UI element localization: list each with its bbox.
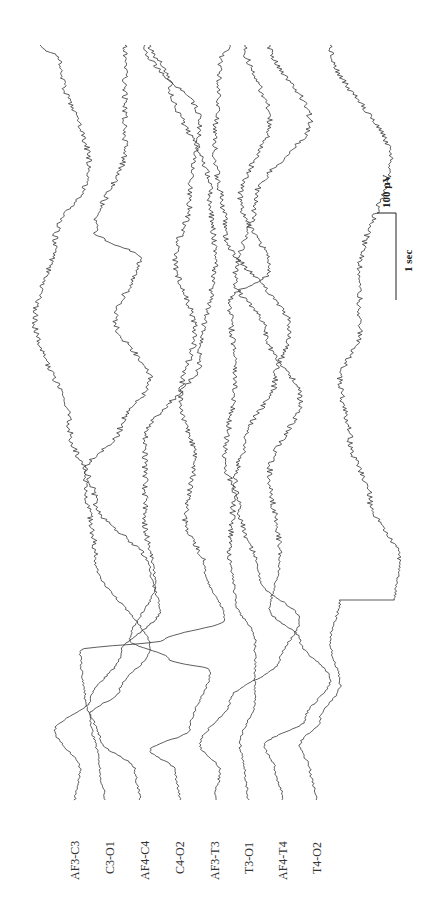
- channel-label-af3-c3: AF3-C3: [68, 841, 82, 880]
- trace-c3-o1: [84, 45, 153, 800]
- trace-c4-o2: [129, 45, 218, 800]
- trace-t4-o2: [299, 45, 401, 800]
- eeg-traces: [32, 45, 401, 800]
- scale-bar: 100 µV 1 sec: [377, 174, 414, 300]
- eeg-chart: AF3-C3 C3-O1 AF4-C4 C4-O2 AF3-T3 T3-O1 A…: [0, 0, 448, 918]
- channel-label-af3-t3: AF3-T3: [208, 841, 222, 880]
- channel-label-t3-o1: T3-O1: [242, 842, 256, 874]
- channel-label-c4-o2: C4-O2: [173, 841, 187, 874]
- channel-labels: AF3-C3 C3-O1 AF4-C4 C4-O2 AF3-T3 T3-O1 A…: [68, 841, 324, 880]
- trace-af3-c3: [32, 45, 161, 800]
- scale-label-time: 1 sec: [402, 250, 414, 272]
- channel-label-af4-t4: AF4-T4: [276, 841, 290, 880]
- trace-t3-o1: [212, 45, 291, 800]
- channel-label-af4-c4: AF4-C4: [138, 841, 152, 880]
- scale-label-amplitude: 100 µV: [380, 174, 392, 208]
- trace-af4-t4: [233, 45, 331, 800]
- channel-label-t4-o2: T4-O2: [310, 842, 324, 874]
- channel-label-c3-o1: C3-O1: [103, 841, 117, 874]
